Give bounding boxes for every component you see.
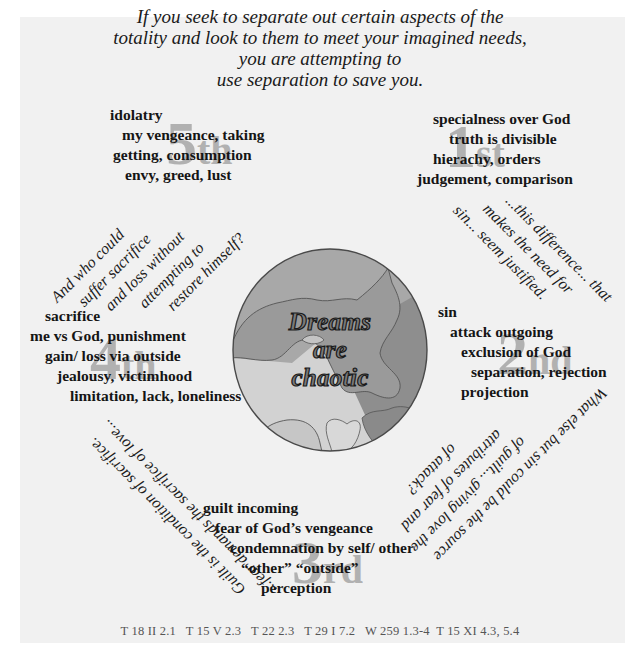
quote-line: you are attempting to [0, 48, 640, 69]
stage-line: exclusion of God [461, 342, 597, 362]
center-line: Dreams [232, 308, 428, 336]
stage-line: limitation, lack, loneliness [70, 386, 241, 406]
center-line: chaotic [232, 364, 428, 392]
top-quote: If you seek to separate out certain aspe… [0, 6, 640, 90]
stage-line: separation, rejection [471, 362, 607, 382]
stage-third: guilt incoming fear of God’s vengeance c… [203, 498, 387, 598]
stage-line: attack outgoing [450, 322, 586, 342]
references: T 18 II 2.1 T 15 V 2.3 T 22 2.3 T 29 I 7… [0, 624, 640, 639]
stage-line: idolatry [110, 105, 253, 125]
stage-line: my vengeance, taking [122, 125, 265, 145]
stage-fourth: sacrifice me vs God, punishment gain/ lo… [30, 306, 201, 406]
quote-line: use separation to save you. [0, 69, 640, 90]
stage-fifth: idolatry my vengeance, taking getting, c… [110, 105, 253, 185]
stage-line: gain/ loss via outside [45, 346, 216, 366]
center-title: Dreams are chaotic [232, 308, 428, 392]
stage-line: judgement, comparison [417, 169, 573, 189]
stage-line: envy, greed, lust [125, 165, 268, 185]
stage-line: projection [461, 382, 597, 402]
stage-line: “other” “outside” [241, 558, 425, 578]
stage-first: specialness over God truth is divisible … [417, 109, 573, 189]
stage-line: me vs God, punishment [30, 326, 201, 346]
stage-line: jealousy, victimhood [57, 366, 228, 386]
quote-line: totality and look to them to meet your i… [0, 27, 640, 48]
quote-line: If you seek to separate out certain aspe… [0, 6, 640, 27]
stage-line: perception [261, 578, 445, 598]
stage-line: getting, consumption [113, 145, 256, 165]
stage-line: condemnation by self/ other [230, 538, 414, 558]
stage-line: fear of God’s vengeance [215, 518, 399, 538]
stage-line: hierachy, orders [433, 149, 589, 169]
stage-second: sin attack outgoing exclusion of God sep… [438, 302, 574, 402]
stage-line: sin [438, 302, 574, 322]
stage-line: guilt incoming [203, 498, 387, 518]
center-line: are [232, 336, 428, 364]
stage-line: specialness over God [433, 109, 589, 129]
stage-line: truth is divisible [449, 129, 605, 149]
stage-line: sacrifice [45, 306, 216, 326]
